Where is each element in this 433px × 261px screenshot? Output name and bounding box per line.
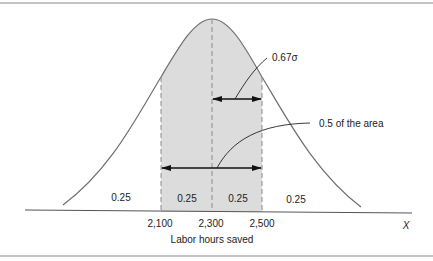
x-axis-label: Labor hours saved: [171, 234, 254, 245]
x-axis-variable: X: [402, 220, 410, 231]
sigma-label: 0.67σ: [272, 52, 298, 63]
tick-label-2300: 2,300: [198, 218, 223, 229]
tick-label-2500: 2,500: [249, 218, 274, 229]
region-label-right-middle: 0.25: [228, 193, 248, 204]
region-label-left-middle: 0.25: [177, 193, 197, 204]
area-label: 0.5 of the area: [319, 118, 384, 129]
region-label-left-tail: 0.25: [111, 192, 131, 203]
tick-label-2100: 2,100: [147, 218, 172, 229]
normal-distribution-diagram: 0.67σ 0.5 of the area 0.25 0.25 0.25 0.2…: [0, 0, 433, 261]
region-label-right-tail: 0.25: [286, 194, 306, 205]
